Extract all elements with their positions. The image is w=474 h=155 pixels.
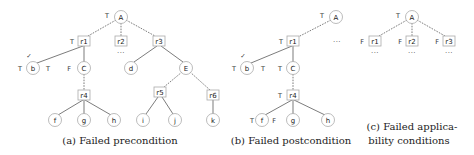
- node-a-r6-label: r6: [209, 92, 217, 100]
- node-a-i-label: i: [142, 117, 144, 125]
- caption-c-line1: (c) Failed applica-: [367, 121, 458, 132]
- edge-r5-j: [162, 97, 173, 114]
- caption-b: (b) Failed postcondition: [231, 135, 352, 146]
- caption-a: (a) Failed precondition: [62, 135, 178, 146]
- node-c-r3-label: r3: [445, 38, 452, 46]
- edge-A-r1: [88, 20, 116, 36]
- edge-c-A-r3: [417, 20, 445, 36]
- caption-c-line2: bility conditions: [368, 135, 449, 146]
- node-a-d-label: d: [129, 65, 133, 73]
- tag-b-r1: T: [278, 38, 283, 46]
- edge-r1-b: [37, 46, 83, 63]
- edge-c-A-r1: [379, 20, 407, 36]
- check-icon: ✓: [240, 52, 245, 60]
- tag-b-A: T: [319, 12, 324, 20]
- edge-r5-i: [146, 97, 158, 114]
- edge-r4-f: [58, 100, 83, 115]
- panel-b: A T r1 T ··· b T T ✓ C T r4 T f T F g h …: [231, 11, 352, 147]
- tag-b-C: T: [277, 65, 282, 73]
- edge-r3-E: [161, 46, 183, 62]
- edge-r3-d: [134, 46, 157, 62]
- ellipsis-c-r2: ···: [408, 49, 416, 57]
- figure-canvas: A T r1 T r2 ··· r3 b T T ✓ C F d E r4: [0, 0, 474, 155]
- node-a-r4-label: r4: [80, 92, 88, 100]
- node-a-r1-label: r1: [80, 38, 87, 46]
- node-a-r5-label: r5: [156, 89, 163, 97]
- node-a-b-label: b: [31, 65, 36, 73]
- node-c-r1-label: r1: [371, 38, 378, 46]
- tag-b-f-right: F: [272, 117, 276, 125]
- node-c-r2-label: r2: [408, 38, 415, 46]
- tag-a-C: F: [67, 65, 71, 73]
- node-b-r1-label: r1: [289, 38, 296, 46]
- ellipsis-b-siblings: ···: [333, 38, 341, 46]
- tag-a-b-left: T: [17, 65, 22, 73]
- ellipsis-c-r3: ···: [445, 49, 453, 57]
- tag-c-r2: F: [398, 38, 402, 46]
- node-a-h-label: h: [112, 117, 116, 125]
- node-b-g-label: g: [291, 117, 295, 125]
- tag-b-f-left: T: [249, 117, 254, 125]
- edge-b-r4-h: [294, 100, 325, 115]
- node-b-h-label: h: [326, 117, 330, 125]
- node-a-E-label: E: [184, 65, 188, 73]
- node-a-j-label: j: [173, 117, 176, 125]
- ellipsis-a-r2: ···: [117, 49, 125, 57]
- check-icon: ✓: [26, 52, 31, 60]
- edge-r4-h: [85, 100, 111, 115]
- tag-b-r4: T: [277, 92, 282, 100]
- tag-b-b-right: T: [260, 65, 265, 73]
- tag-b-b-left: T: [231, 65, 236, 73]
- tag-c-A: T: [395, 12, 400, 20]
- tag-c-r3: F: [435, 38, 439, 46]
- edge-b-r1-b: [251, 46, 292, 63]
- node-b-r4-label: r4: [289, 92, 297, 100]
- node-a-r3-label: r3: [155, 38, 162, 46]
- node-a-C-label: C: [82, 65, 87, 73]
- tag-a-A: T: [104, 12, 109, 20]
- node-a-g-label: g: [82, 117, 86, 125]
- node-b-A-label: A: [334, 14, 339, 22]
- node-a-r2-label: r2: [117, 38, 124, 46]
- panel-a: A T r1 T r2 ··· r3 b T T ✓ C F d E r4: [17, 11, 219, 147]
- edge-E-r6: [190, 72, 210, 90]
- edge-E-r5: [164, 72, 182, 87]
- tag-a-r1: T: [69, 38, 74, 46]
- edge-b-A-r1: [298, 20, 331, 37]
- node-a-A-label: A: [119, 14, 124, 22]
- node-b-C-label: C: [291, 65, 296, 73]
- tag-a-b-right: T: [45, 65, 50, 73]
- tag-c-r1: F: [360, 38, 364, 46]
- edge-A-r3: [126, 20, 155, 36]
- node-c-A-label: A: [410, 14, 415, 22]
- edge-b-r4-f: [265, 100, 292, 115]
- ellipsis-c-r1: ···: [371, 49, 379, 57]
- panel-c: A T r1 F ··· r2 F ··· r3 F ··· (c) Faile…: [360, 11, 457, 147]
- node-b-b-label: b: [245, 65, 250, 73]
